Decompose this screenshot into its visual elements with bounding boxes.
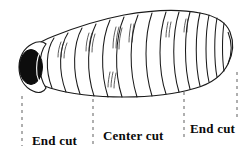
label-end-cut-right: End cut	[190, 121, 235, 137]
label-center-cut: Center cut	[103, 128, 164, 144]
head-opening	[19, 42, 46, 93]
larva-body	[19, 11, 232, 97]
body-outline	[24, 11, 232, 97]
figure-container: End cut Center cut End cut	[0, 0, 252, 157]
label-end-cut-left: End cut	[32, 133, 77, 149]
